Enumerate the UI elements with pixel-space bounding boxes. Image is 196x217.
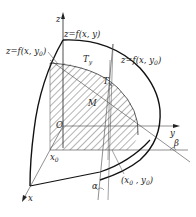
surface-label: z=f(x, y) (63, 29, 100, 39)
x-axis (22, 126, 63, 202)
y-axis-label: y (169, 128, 175, 138)
beta-label: β (173, 138, 179, 148)
curve-x0-label-right: z=f(x, y0) (120, 55, 161, 66)
curve-y0-label-left: z=f(x, y0) (5, 46, 46, 57)
x0-label: x0 (50, 152, 59, 163)
partial-derivative-diagram: z y x z=f(x, y) z=f(x, y0) z=f(x, y0) Ty… (0, 0, 196, 217)
point-xy-label: (x0 , y0) (121, 175, 153, 186)
origin-label: O (56, 120, 63, 130)
tangent-ty-label: Ty (83, 54, 93, 66)
z-axis-label: z (55, 14, 61, 24)
alpha-arc (97, 188, 104, 190)
x-axis-label: x (28, 193, 33, 203)
point-m-label: M (87, 98, 97, 108)
tangent-tx-label: Tx (103, 76, 113, 87)
alpha-label: α (92, 181, 98, 191)
